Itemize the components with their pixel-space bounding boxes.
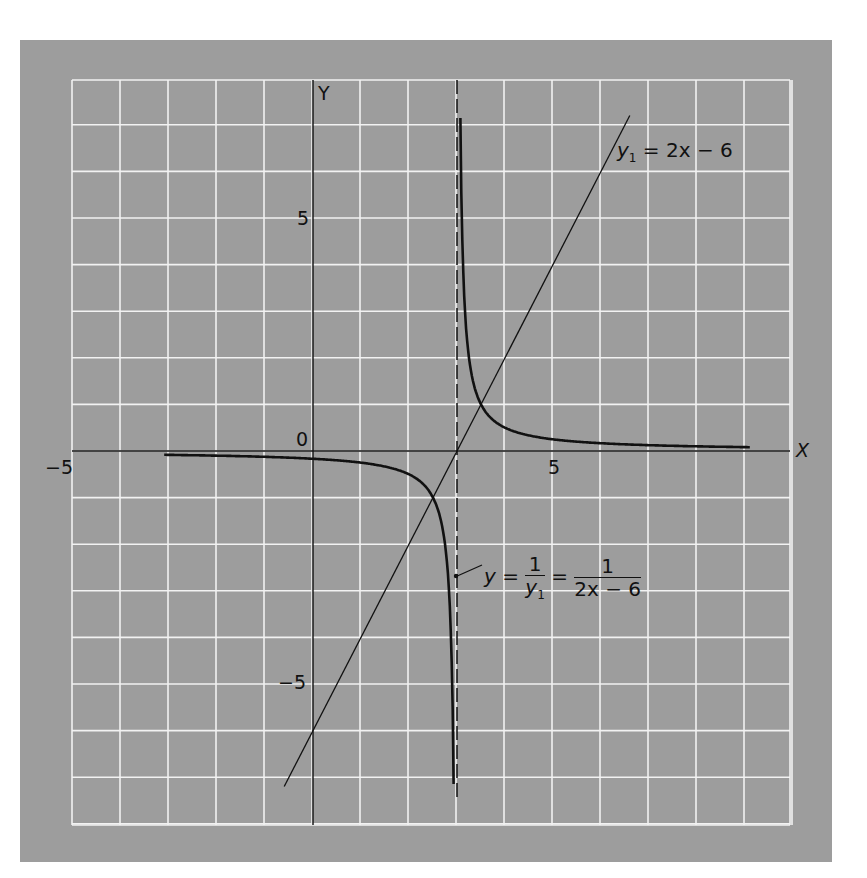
fraction-1-over-2x-6: 1 2x − 6 [574,556,641,599]
eq1-lhs: y [617,138,629,162]
eq1-rhs: = 2x − 6 [643,138,733,162]
frac1-denominator: y1 [525,576,544,601]
frac2-numerator: 1 [574,556,641,578]
hyperbola-equation-label: y = 1 y1 = 1 2x − 6 [484,554,641,601]
grid-lines [72,80,792,825]
fraction-1-over-y1: 1 y1 [525,554,544,601]
eq1-sub: 1 [629,151,637,165]
origin-label: 0 [296,430,308,449]
eq2-equals: = [551,564,568,588]
y-axis-label: Y [318,84,330,103]
eq2-lhs: y = [484,564,519,588]
x-axis-label: X [796,441,809,460]
annotation-arrow [455,565,482,577]
plot-area [0,0,867,878]
line-equation-label: y1 = 2x − 6 [617,140,733,164]
hyperbola-left-branch [164,455,453,784]
frac2-denominator: 2x − 6 [574,578,641,599]
frac1-numerator: 1 [525,554,544,576]
x-tick-neg5: −5 [45,458,73,477]
y-tick-neg5: −5 [278,673,306,692]
y-tick-5: 5 [297,209,309,228]
x-tick-5: 5 [548,458,560,477]
annotation-arrow-head [454,574,458,578]
